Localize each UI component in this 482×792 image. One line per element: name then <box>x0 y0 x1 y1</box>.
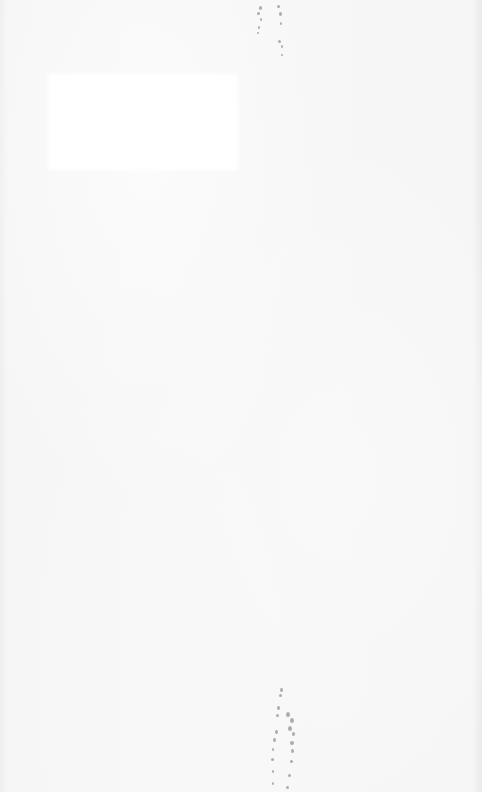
speckle-mark <box>281 45 283 48</box>
speckle-mark <box>272 748 274 751</box>
speckle-mark <box>280 688 283 692</box>
speckle-mark <box>281 54 283 56</box>
speckle-mark <box>277 706 280 710</box>
speckle-mark <box>290 760 293 763</box>
speckle-mark <box>292 732 295 736</box>
speckle-mark <box>286 786 289 789</box>
speckle-mark <box>278 40 281 43</box>
scanned-blank-page <box>0 0 482 792</box>
speckle-mark <box>257 32 259 34</box>
speckle-mark <box>275 730 278 734</box>
speckle-mark <box>276 714 279 717</box>
speckle-mark <box>273 738 276 742</box>
speckle-mark <box>280 22 282 25</box>
speckle-mark <box>279 12 282 16</box>
top-scan-speckles <box>255 2 285 62</box>
speckle-mark <box>277 5 280 8</box>
speckle-mark <box>291 749 294 753</box>
speckle-mark <box>290 718 294 723</box>
blank-white-patch <box>48 74 238 170</box>
speckle-mark <box>286 712 290 717</box>
speckle-mark <box>257 12 260 15</box>
speckle-mark <box>288 726 292 731</box>
speckle-mark <box>271 758 274 761</box>
speckle-mark <box>279 694 282 697</box>
speckle-mark <box>259 6 262 10</box>
bottom-scan-speckles <box>266 686 306 792</box>
speckle-mark <box>272 770 274 773</box>
speckle-mark <box>288 774 291 777</box>
speckle-mark <box>260 18 262 21</box>
speckle-mark <box>290 741 294 745</box>
speckle-mark <box>258 26 260 29</box>
speckle-mark <box>272 782 274 785</box>
